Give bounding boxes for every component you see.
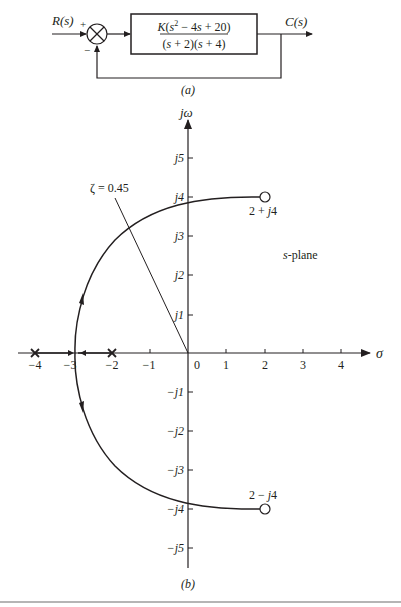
x-tick-label: −1 bbox=[143, 358, 156, 372]
caption-b: (b) bbox=[181, 577, 195, 591]
block-diagram: R(s) + − K(s2 − 4s + 20) (s + 2)(s + 4) … bbox=[51, 13, 312, 97]
y-tick-label: −j2 bbox=[167, 424, 184, 438]
jw-axis-label: jω bbox=[178, 105, 193, 120]
zero-label-lower: 2 − j4 bbox=[249, 488, 277, 502]
sigma-axis-label: σ bbox=[376, 346, 384, 361]
x-tick-label: 2 bbox=[262, 358, 268, 372]
zero-marker-icon bbox=[260, 504, 270, 514]
output-label: C(s) bbox=[285, 14, 307, 29]
y-tick-label: j2 bbox=[173, 268, 184, 282]
x-tick-label: 1 bbox=[223, 358, 229, 372]
y-tick-label: −j4 bbox=[167, 502, 184, 516]
y-tick-label: j1 bbox=[173, 308, 184, 322]
zero-marker-icon bbox=[260, 192, 270, 202]
x-tick-label: 4 bbox=[338, 358, 344, 372]
x-tick-label: −2 bbox=[106, 358, 119, 372]
summing-junction bbox=[87, 24, 107, 44]
caption-a: (a) bbox=[181, 83, 195, 97]
y-tick-label: −j1 bbox=[167, 385, 184, 399]
input-label: R(s) bbox=[51, 13, 74, 28]
zero-label-upper: 2 + j4 bbox=[249, 204, 277, 218]
x-tick-label: −4 bbox=[29, 358, 42, 372]
x-tick-label: 3 bbox=[300, 358, 306, 372]
s-plane-label: s-plane bbox=[283, 248, 318, 262]
y-tick-label: j4 bbox=[173, 190, 184, 204]
y-tick-label: j5 bbox=[173, 151, 184, 165]
y-tick-label: j3 bbox=[173, 229, 184, 243]
x-tick-label: 0 bbox=[194, 358, 200, 372]
y-tick-label: −j3 bbox=[167, 463, 184, 477]
zeta-label: ζ = 0.45 bbox=[90, 181, 129, 195]
y-tick-label: −j5 bbox=[167, 541, 184, 555]
summing-plus: + bbox=[80, 18, 86, 30]
direction-arrow-icon bbox=[80, 350, 86, 356]
figure: R(s) + − K(s2 − 4s + 20) (s + 2)(s + 4) … bbox=[0, 0, 401, 607]
direction-arrow-icon bbox=[68, 350, 74, 356]
summing-minus: − bbox=[84, 44, 90, 56]
root-locus-plot: σ jω −4 −3 −2 −1 0 1 2 3 4 bbox=[18, 105, 384, 591]
tf-numerator: K(s2 − 4s + 20) bbox=[157, 19, 231, 34]
tf-denominator: (s + 2)(s + 4) bbox=[163, 37, 226, 51]
